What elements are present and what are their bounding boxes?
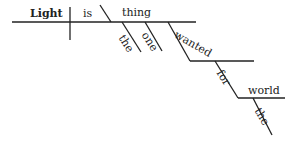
sentence-diagram (0, 0, 292, 141)
word-verb: is (83, 8, 92, 19)
word-predicate: thing (122, 7, 151, 18)
word-subject: Light (30, 8, 63, 19)
word-world: world (248, 85, 280, 96)
predicate-slash (100, 5, 111, 22)
